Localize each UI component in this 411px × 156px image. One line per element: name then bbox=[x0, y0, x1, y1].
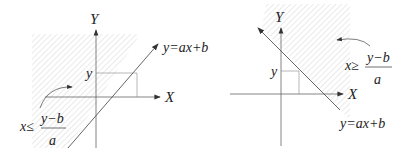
inequality-label: x≤ bbox=[19, 119, 34, 134]
projection-lines bbox=[281, 71, 299, 94]
inequality-diagrams: Y X y y=ax+b x≤ y−b a Y X y y=ax+b x≥ y−… bbox=[0, 0, 411, 156]
denominator: a bbox=[49, 133, 56, 148]
shaded-region bbox=[32, 34, 140, 148]
line-equation-label: y=ax+b bbox=[338, 116, 385, 131]
x-axis-label: X bbox=[164, 89, 175, 105]
point-y-label: y bbox=[269, 64, 278, 79]
y-axis-label: Y bbox=[90, 11, 100, 27]
line-equation-label: y=ax+b bbox=[161, 40, 208, 55]
point-y-label: y bbox=[84, 66, 93, 81]
inequality-label: x≥ bbox=[344, 58, 359, 73]
numerator: y−b bbox=[365, 50, 390, 65]
diagram-left: Y X y y=ax+b x≤ y−b a bbox=[19, 11, 208, 148]
diagram-right: Y X y y=ax+b x≥ y−b a bbox=[230, 4, 392, 146]
denominator: a bbox=[374, 72, 381, 87]
x-axis-label: X bbox=[347, 86, 358, 102]
numerator: y−b bbox=[39, 111, 64, 126]
